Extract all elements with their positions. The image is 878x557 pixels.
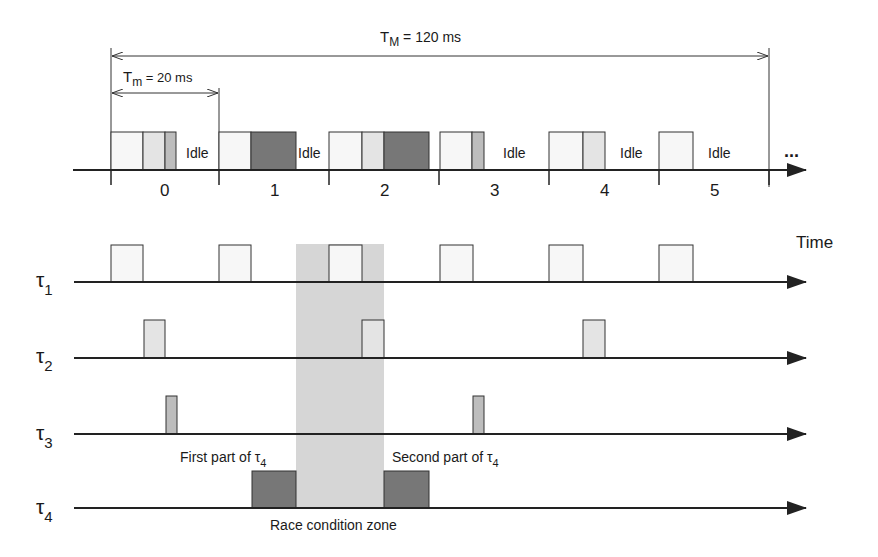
task-row-tau3: τ3 (36, 396, 806, 451)
svg-text:TM = 120 ms: TM = 120 ms (380, 28, 461, 49)
frame-number-0: 0 (160, 181, 169, 200)
task-row-tau2: τ2 (36, 320, 806, 374)
idle-label-frame-4: Idle (620, 145, 643, 161)
minor-cycle-value: = 20 ms (142, 70, 193, 85)
first-part-annotation: First part of τ4 (180, 449, 266, 469)
task-index: 2 (44, 357, 52, 374)
frame-number-3: 3 (490, 181, 499, 200)
task-index: 3 (44, 434, 52, 451)
race-condition-label: Race condition zone (270, 517, 397, 533)
time-label: Time (796, 233, 833, 252)
svg-text:Tm = 20 ms: Tm = 20 ms (123, 68, 193, 89)
major-cycle-value: = 120 ms (399, 29, 461, 45)
major-cycle-subscript: M (389, 35, 399, 49)
frame-number-5: 5 (710, 181, 719, 200)
major-cycle-label: T (380, 28, 389, 45)
idle-label-frame-3: Idle (503, 145, 526, 161)
race-condition-zone (296, 244, 384, 508)
task-index: 1 (44, 281, 52, 298)
svg-text:τ3: τ3 (36, 421, 53, 451)
idle-label-frame-1: Idle (298, 145, 321, 161)
svg-text:τ4: τ4 (36, 495, 53, 525)
schedule-diagram: TM = 120 ms Tm = 20 ms (0, 0, 878, 557)
task-index: 4 (44, 508, 52, 525)
frame-number-4: 4 (600, 181, 609, 200)
frame-number-2: 2 (380, 181, 389, 200)
idle-label-frame-0: Idle (186, 145, 209, 161)
cyclic-schedule: Idle Idle Idle Idle Idle 0 1 2 3 4 5 ... (73, 132, 806, 200)
minor-cycle-subscript: m (132, 75, 142, 89)
svg-text:τ2: τ2 (36, 344, 53, 374)
continuation-ellipsis: ... (784, 141, 799, 161)
frame-number-1: 1 (270, 181, 279, 200)
svg-text:τ1: τ1 (36, 268, 53, 298)
second-part-annotation: Second part of τ4 (392, 449, 499, 469)
idle-label-frame-5: Idle (708, 145, 731, 161)
task-row-tau4: τ4 (36, 471, 806, 525)
task-row-tau1: τ1 (36, 245, 806, 298)
minor-cycle-label: T (123, 68, 132, 85)
